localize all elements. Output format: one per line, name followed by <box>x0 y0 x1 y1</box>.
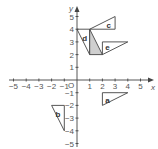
shapes: cdeab <box>52 17 128 131</box>
x-tick-label: −4 <box>22 82 32 91</box>
y-axis-arrow-icon <box>75 6 80 12</box>
x-tick-label: 5 <box>138 82 143 91</box>
x-tick-label: 3 <box>113 82 118 91</box>
y-tick-label: −2 <box>65 101 75 110</box>
x-axis-label: x <box>150 83 156 92</box>
x-tick-label: −3 <box>34 82 44 91</box>
x-tick-label: −5 <box>9 82 19 91</box>
y-tick-label: 2 <box>70 51 75 60</box>
axis-ticks: −5−4−3−2−11234554321−1−2−3−4−5 <box>9 13 143 149</box>
x-tick-label: 1 <box>87 82 92 91</box>
coordinate-grid-diagram: x y O −5−4−3−2−11234554321−1−2−3−4−5 cde… <box>0 0 158 149</box>
x-tick-label: 2 <box>100 82 105 91</box>
triangle-label-d: d <box>82 34 87 43</box>
triangle-label-e: e <box>105 43 110 52</box>
y-tick-label: 3 <box>70 38 75 47</box>
triangle-shaded <box>90 29 103 54</box>
y-tick-label: 5 <box>70 13 75 22</box>
y-tick-label: −5 <box>65 140 75 149</box>
triangle-label-b: b <box>56 110 61 119</box>
triangle-label-c: c <box>107 21 112 30</box>
x-tick-label: 4 <box>126 82 131 91</box>
triangle-label-a: a <box>105 96 110 105</box>
triangle-c <box>90 17 115 30</box>
y-tick-label: 4 <box>70 25 75 34</box>
x-axis-arrow-icon <box>148 78 154 83</box>
y-tick-label: −1 <box>65 89 75 98</box>
x-tick-label: −2 <box>47 82 57 91</box>
y-tick-label: −4 <box>65 127 75 136</box>
x-axis: x <box>9 78 156 93</box>
y-tick-label: −3 <box>65 114 75 123</box>
y-tick-label: 1 <box>70 63 75 72</box>
